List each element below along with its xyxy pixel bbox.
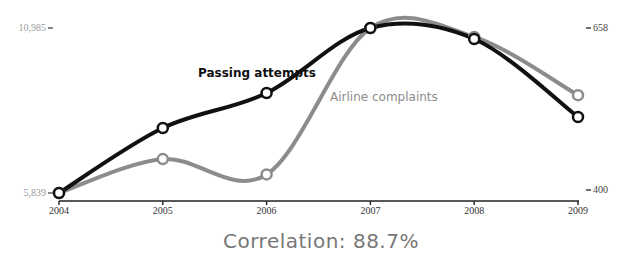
- passing-attempts-label: Passing attempts: [198, 66, 316, 80]
- x-tick-label: 2009: [568, 205, 588, 216]
- x-tick-label: 2006: [257, 205, 277, 216]
- x-tick-label: 2005: [153, 205, 173, 216]
- airline-complaints-line: [59, 18, 578, 193]
- right-axis-min-label: 400: [593, 184, 608, 195]
- correlation-annotation: Correlation: 88.7%: [0, 229, 642, 253]
- passing-attempts-point: [54, 188, 64, 198]
- passing-attempts-point: [365, 23, 375, 33]
- passing-attempts-point: [573, 112, 583, 122]
- airline-complaints-point: [158, 154, 168, 164]
- passing-attempts-point: [158, 123, 168, 133]
- left-axis-min-label: 5,839: [24, 187, 47, 198]
- airline-complaints-label: Airline complaints: [330, 90, 438, 104]
- right-axis-max-label: 658: [593, 22, 608, 33]
- left-axis-max-label: 10,985: [19, 22, 47, 33]
- airline-complaints-point: [573, 90, 583, 100]
- x-tick-label: 2004: [49, 205, 69, 216]
- airline-complaints-point: [262, 169, 272, 179]
- x-tick-label: 2007: [360, 205, 380, 216]
- passing-attempts-point: [469, 34, 479, 44]
- x-tick-label: 2008: [464, 205, 484, 216]
- x-axis-ticks: 200420052006200720082009: [49, 201, 588, 216]
- passing-attempts-point: [262, 88, 272, 98]
- dual-axis-line-chart: 200420052006200720082009 10,985 5,839 65…: [0, 0, 642, 262]
